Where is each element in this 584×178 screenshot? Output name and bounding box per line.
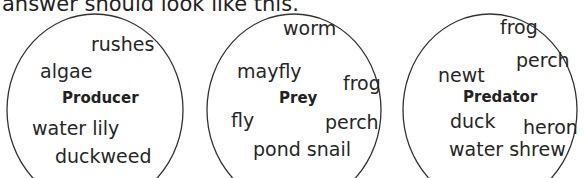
prey-word-worm: worm (283, 17, 336, 39)
producer-word-algae: algae (40, 60, 92, 82)
predator-word-duck: duck (450, 110, 496, 132)
predator-label: Predator (463, 88, 537, 106)
producer-word-duckweed: duckweed (55, 145, 152, 167)
prey-word-perch: perch (325, 111, 379, 133)
prey-word-fly: fly (231, 109, 254, 131)
prey-word-frog: frog (343, 72, 381, 94)
producer-word-water-lily: water lily (32, 117, 119, 139)
predator-word-frog: frog (500, 16, 538, 38)
producer-label: Producer (62, 89, 139, 107)
prey-word-pond-snail: pond snail (253, 138, 351, 160)
predator-word-perch: perch (516, 49, 570, 71)
prey-word-mayfly: mayfly (237, 60, 302, 82)
producer-word-rushes: rushes (91, 33, 154, 55)
predator-word-water-shrew: water shrew (449, 138, 566, 160)
predator-word-heron: heron (523, 116, 578, 138)
prey-label: Prey (279, 89, 317, 107)
predator-word-newt: newt (438, 64, 485, 86)
